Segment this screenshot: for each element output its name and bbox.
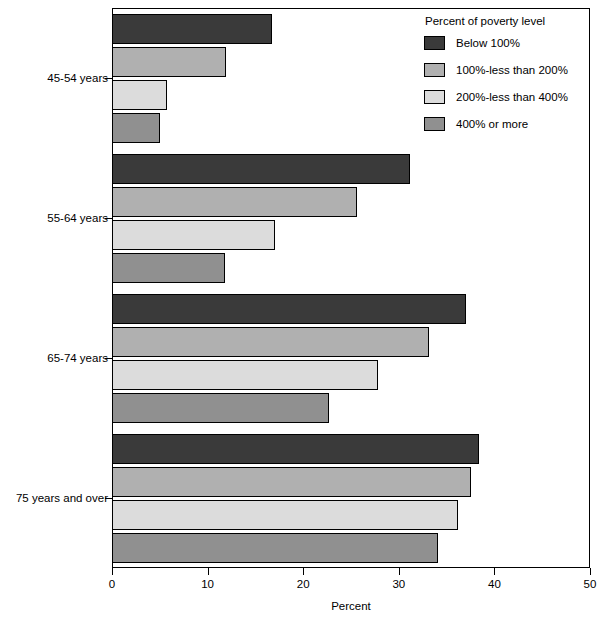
x-axis-tick-label: 20 [283, 578, 323, 591]
x-axis-tick-label: 0 [92, 578, 132, 591]
legend-item-label: 400% or more [456, 117, 528, 131]
y-axis-tick-label: 75 years and over [4, 492, 108, 504]
legend: Percent of poverty level Below 100%100%-… [424, 14, 604, 142]
x-axis-tick [399, 568, 400, 575]
x-axis-tick-label: 30 [379, 578, 419, 591]
bar [112, 294, 466, 324]
bar [112, 113, 160, 143]
bar [112, 467, 471, 497]
y-axis-tick-label: 65-74 years [4, 352, 108, 364]
x-axis-tick-label: 40 [474, 578, 514, 591]
bar [112, 14, 272, 44]
y-axis-tick-label: 55-64 years [4, 212, 108, 224]
legend-item-label: 200%-less than 400% [456, 90, 568, 104]
bar [112, 533, 438, 563]
legend-rows: Below 100%100%-less than 200%200%-less t… [424, 34, 604, 133]
y-axis-tick [105, 358, 112, 359]
bar-group [112, 288, 590, 428]
legend-item-label: Below 100% [456, 36, 520, 50]
legend-item: Below 100% [424, 34, 604, 52]
bar [112, 500, 458, 530]
bar [112, 360, 378, 390]
bar [112, 154, 410, 184]
legend-item: 200%-less than 400% [424, 88, 604, 106]
legend-swatch-icon [424, 36, 445, 50]
bar-chart: 45-54 years55-64 years65-74 years75 year… [0, 0, 612, 624]
y-axis-tick [105, 78, 112, 79]
bar [112, 393, 329, 423]
x-axis-title: Percent [112, 600, 590, 612]
legend-swatch-icon [424, 63, 445, 77]
legend-item: 400% or more [424, 115, 604, 133]
bar [112, 434, 479, 464]
legend-title: Percent of poverty level [425, 14, 604, 28]
legend-swatch-icon [424, 90, 445, 104]
bar [112, 47, 226, 77]
x-axis-tick [494, 568, 495, 575]
bar-group [112, 148, 590, 288]
x-axis-tick-label: 50 [570, 578, 610, 591]
y-axis-category-labels: 45-54 years55-64 years65-74 years75 year… [0, 8, 108, 568]
x-axis-tick-label: 10 [188, 578, 228, 591]
x-axis-tick [590, 568, 591, 575]
y-axis-tick [105, 218, 112, 219]
legend-item-label: 100%-less than 200% [456, 63, 568, 77]
bar-group [112, 428, 590, 568]
bar [112, 327, 429, 357]
y-axis-tick [105, 498, 112, 499]
bar [112, 80, 167, 110]
y-axis-tick-label: 45-54 years [4, 72, 108, 84]
x-axis-tick [208, 568, 209, 575]
bar [112, 220, 275, 250]
x-axis-tick [112, 568, 113, 575]
x-axis-tick [303, 568, 304, 575]
legend-item: 100%-less than 200% [424, 61, 604, 79]
bar [112, 253, 225, 283]
bar [112, 187, 357, 217]
legend-swatch-icon [424, 117, 445, 131]
